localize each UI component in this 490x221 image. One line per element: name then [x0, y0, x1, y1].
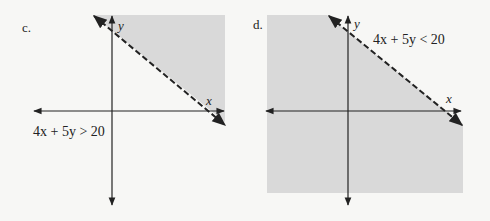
panel-d: d. y x 4x + 5y < 20: [253, 15, 463, 205]
inequality-graphs-figure: c. y x 4x + 5y > 20 d. y x 4x + 5y < 20: [0, 0, 490, 221]
x-axis-label-d: x: [445, 91, 452, 106]
x-axis-label-c: x: [205, 93, 212, 108]
panel-label-c: c.: [22, 20, 31, 35]
inequality-label-d: 4x + 5y < 20: [373, 32, 445, 47]
panel-label-d: d.: [253, 17, 263, 32]
panel-c: c. y x 4x + 5y > 20: [22, 15, 225, 205]
inequality-label-c: 4x + 5y > 20: [33, 124, 105, 139]
y-axis-label-d: y: [352, 16, 360, 31]
y-axis-label-c: y: [116, 18, 124, 33]
graphs-canvas: c. y x 4x + 5y > 20 d. y x 4x + 5y < 20: [0, 0, 490, 221]
